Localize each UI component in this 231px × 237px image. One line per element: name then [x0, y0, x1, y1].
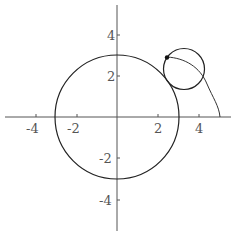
- x-tick-label: -2: [67, 121, 80, 136]
- x-tick-label: -4: [26, 121, 39, 136]
- y-tick-label: -4: [99, 193, 112, 208]
- x-tick-label: 4: [195, 121, 203, 136]
- tracing-point: [165, 55, 169, 59]
- figure: -4 -2 2 4 4 2 -2 -4: [0, 0, 231, 237]
- y-tick-label: 2: [107, 69, 115, 84]
- x-tick-label: 2: [154, 121, 162, 136]
- rolling-circle: [164, 49, 205, 90]
- y-tick-label: 4: [107, 28, 115, 43]
- y-tick-label: -2: [99, 151, 112, 166]
